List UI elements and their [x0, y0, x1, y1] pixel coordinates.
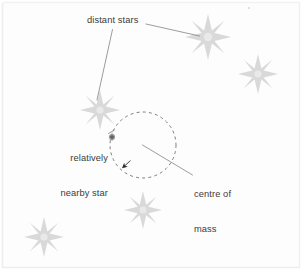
- diagram-canvas: distant stars relatively nearby star cen…: [0, 0, 306, 274]
- label-relatively-nearby-star-line2: nearby star: [18, 188, 108, 200]
- label-relatively-nearby-star-line1: relatively: [18, 153, 108, 165]
- label-centre-of-mass: centre of mass: [194, 166, 231, 258]
- label-distant-stars: distant stars: [87, 15, 138, 27]
- label-relatively-nearby-star: relatively nearby star: [18, 130, 108, 222]
- label-centre-of-mass-line2: mass: [194, 224, 231, 236]
- label-centre-of-mass-line1: centre of: [194, 189, 231, 201]
